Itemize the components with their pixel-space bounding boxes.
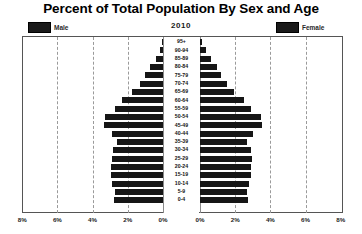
bar-male-10-14 [112,181,163,187]
bar-female-70-74 [200,81,227,87]
age-label-60-64: 60-64 [164,98,199,103]
age-label-70-74: 70-74 [164,81,199,86]
age-label-65-69: 65-69 [164,89,199,94]
bar-female-10-14 [200,181,249,187]
bar-male-50-54 [105,114,163,120]
bar-female-0-4 [200,197,248,203]
age-label-35-39: 35-39 [164,139,199,144]
bar-male-5-9 [115,189,163,195]
bar-male-75-79 [145,72,163,78]
age-label-25-29: 25-29 [164,156,199,161]
bar-male-60-64 [122,97,163,103]
age-label-30-34: 30-34 [164,147,199,152]
bar-male-45-49 [104,122,163,128]
x-tick-male-6%: 6% [53,216,62,223]
bar-male-70-74 [140,81,163,87]
bar-female-15-19 [200,172,251,178]
bar-male-35-39 [117,139,163,145]
bar-male-80-84 [150,64,163,70]
x-tick-male-4%: 4% [88,216,97,223]
bar-female-50-54 [200,114,261,120]
age-label-20-24: 20-24 [164,164,199,169]
age-label-75-79: 75-79 [164,73,199,78]
bar-male-25-29 [112,156,163,162]
bar-male-90-94 [160,47,163,53]
bar-male-85-89 [156,56,163,62]
chart-title: Percent of Total Population By Sex and A… [0,1,362,16]
bar-female-90-94 [200,47,206,53]
x-tick-female-0%: 0% [196,216,205,223]
bar-male-20-24 [111,164,163,170]
x-tick-female-8%: 8% [336,216,345,223]
age-label-5-9: 5-9 [164,189,199,194]
bar-female-35-39 [200,139,247,145]
x-tick-male-2%: 2% [123,216,132,223]
gridline-female-4pct [270,37,271,213]
bar-female-95+ [200,39,202,45]
age-label-55-59: 55-59 [164,106,199,111]
x-tick-female-4%: 4% [266,216,275,223]
bar-female-45-49 [200,122,262,128]
bar-female-55-59 [200,106,251,112]
x-tick-male-8%: 8% [18,216,27,223]
chart-year-label: 2010 [0,21,362,30]
x-tick-female-2%: 2% [231,216,240,223]
bar-male-15-19 [111,172,163,178]
age-label-95+: 95+ [164,39,199,44]
age-label-40-44: 40-44 [164,131,199,136]
age-label-10-14: 10-14 [164,181,199,186]
bar-female-80-84 [200,64,217,70]
bar-female-5-9 [200,189,247,195]
age-label-90-94: 90-94 [164,48,199,53]
age-label-45-49: 45-49 [164,123,199,128]
bar-male-55-59 [115,106,163,112]
bar-male-30-34 [113,147,163,153]
gridline-male-4pct [93,37,94,213]
bar-female-40-44 [200,131,253,137]
bar-male-95+ [162,39,163,45]
bar-male-65-69 [132,89,163,95]
bar-female-65-69 [200,89,234,95]
chart-page: Percent of Total Population By Sex and A… [0,0,362,234]
bar-female-85-89 [200,56,211,62]
age-label-85-89: 85-89 [164,56,199,61]
bar-female-25-29 [200,156,252,162]
bar-female-20-24 [200,164,251,170]
x-tick-female-6%: 6% [301,216,310,223]
bar-female-30-34 [200,147,251,153]
bar-female-60-64 [200,97,244,103]
age-label-50-54: 50-54 [164,114,199,119]
age-label-15-19: 15-19 [164,172,199,177]
bar-male-40-44 [112,131,163,137]
gridline-female-6pct [306,37,307,213]
bar-female-75-79 [200,72,221,78]
x-tick-male-0%: 0% [159,216,168,223]
gridline-male-6pct [57,37,58,213]
age-label-80-84: 80-84 [164,64,199,69]
bar-male-0-4 [114,197,163,203]
age-label-0-4: 0-4 [164,197,199,202]
